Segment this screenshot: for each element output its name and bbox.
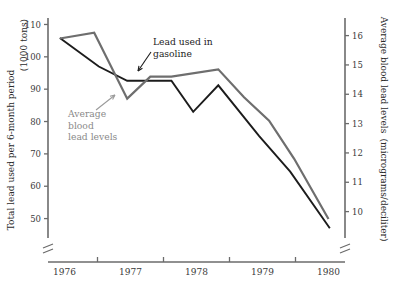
annotation-label-lead-used-in-gasoline: gasoline xyxy=(153,48,192,59)
x-axis-tick-label: 1978 xyxy=(185,267,208,277)
right-axis-tick-label: 15 xyxy=(352,60,363,70)
annotation-label-lead-used-in-gasoline: Lead used in xyxy=(153,36,213,47)
right-axis-tick-label: 12 xyxy=(352,148,363,158)
annotations-group: Lead used ingasolineAveragebloodlead lev… xyxy=(67,36,213,142)
lead-levels-line-chart: 5060708090100110 10111213141516 19761977… xyxy=(0,0,395,300)
right-axis-tick-label: 10 xyxy=(352,207,363,217)
right-axis: 10111213141516 xyxy=(340,18,363,253)
x-axis-tick-label: 1976 xyxy=(53,267,76,277)
x-axis-tick-label: 1980 xyxy=(317,267,340,277)
left-axis-break-mark xyxy=(43,244,53,253)
right-axis-break-mark xyxy=(340,244,350,253)
left-axis-title-main: Total lead used per 6-month period xyxy=(6,70,16,231)
left-axis: 5060708090100110 xyxy=(25,18,53,253)
left-axis-title-units: (1000 tons) xyxy=(19,19,29,71)
x-axis-tick-label: 1977 xyxy=(119,267,142,277)
right-axis-tick-label: 11 xyxy=(352,177,363,187)
left-axis-tick-label: 60 xyxy=(30,181,41,191)
x-axis-tick-label: 1979 xyxy=(251,267,274,277)
left-axis-tick-label: 70 xyxy=(30,149,41,159)
right-axis-tick-label: 13 xyxy=(352,119,363,129)
left-axis-tick-label: 50 xyxy=(30,214,41,224)
right-axis-tick-label: 16 xyxy=(352,31,363,41)
right-axis-title-main: Average blood lead levels xyxy=(379,16,389,134)
series-line-average-blood-lead-levels xyxy=(60,33,329,219)
annotation-label-average-blood-lead-levels: lead levels xyxy=(68,131,118,142)
annotation-label-average-blood-lead-levels: blood xyxy=(68,120,94,131)
annotation-arrow-lead-used-in-gasoline xyxy=(138,52,151,71)
x-axis: 19761977197819791980 xyxy=(48,257,345,277)
annotation-label-average-blood-lead-levels: Average xyxy=(67,108,106,119)
left-axis-tick-label: 90 xyxy=(30,84,41,94)
chart-container: 5060708090100110 10111213141516 19761977… xyxy=(0,0,395,300)
right-axis-title-units: (micrograms/deciliter) xyxy=(379,139,389,242)
left-axis-tick-label: 80 xyxy=(30,117,41,127)
right-axis-tick-label: 14 xyxy=(352,89,363,99)
